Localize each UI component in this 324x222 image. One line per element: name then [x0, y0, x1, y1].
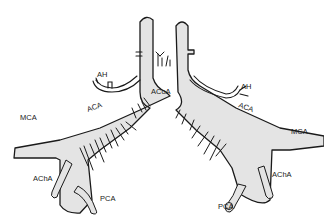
right-vessel-tree [176, 22, 324, 212]
label-acoa: ACoA [151, 87, 171, 96]
label-pca-left: PCA [100, 194, 115, 203]
left-vessel-tree [14, 17, 170, 214]
label-mca-left: MCA [20, 113, 37, 122]
label-pca-right: PCA [218, 202, 233, 211]
label-acha-right: AChA [272, 170, 292, 179]
label-ah-left: AH [97, 70, 107, 79]
cerebral-artery-diagram: AH AH ACoA ACA ACA MCA MCA AChA AChA PCA… [0, 0, 324, 222]
label-mca-right: MCA [291, 127, 308, 136]
acoa-perforators [156, 52, 170, 66]
label-acha-left: AChA [33, 174, 53, 183]
label-aca-left: ACA [86, 100, 104, 114]
label-ah-right: AH [241, 82, 251, 91]
